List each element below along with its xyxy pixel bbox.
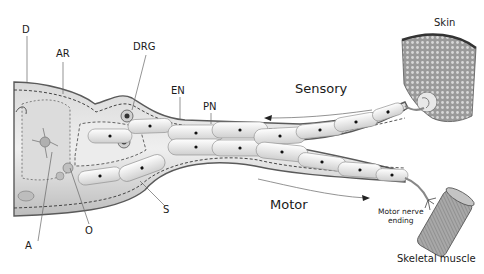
label-D: D: [22, 25, 30, 35]
motor-nerve-ending-line1: Motor nerve: [378, 207, 424, 216]
nucleus: [238, 128, 241, 131]
drg-neuron-upper: [121, 110, 133, 122]
schwann-cell: [376, 168, 408, 181]
schwann-cell: [128, 118, 172, 134]
motor-nerve-ending: [425, 198, 436, 210]
label-skin: Skin: [434, 18, 455, 28]
motor-nerve-fiber: [405, 178, 428, 200]
motor-nerve-ending-line2: ending: [388, 216, 414, 225]
nerve-diagram: [0, 0, 484, 274]
label-DRG: DRG: [133, 42, 155, 52]
nucleus: [194, 131, 197, 134]
label-motor-nerve-ending: Motor nerve ending: [378, 207, 424, 226]
label-EN: EN: [171, 86, 185, 96]
label-motor: Motor: [270, 198, 308, 211]
label-A: A: [25, 241, 32, 251]
leader-S: [140, 181, 165, 206]
label-S: S: [163, 205, 169, 215]
spinal-cell: [18, 191, 34, 201]
schwann-cell: [338, 161, 383, 178]
nucleus: [108, 134, 111, 137]
label-AR: AR: [56, 49, 70, 59]
schwann-cell: [88, 129, 132, 143]
label-sensory: Sensory: [295, 82, 347, 95]
label-PN: PN: [203, 102, 217, 112]
label-O: O: [85, 226, 93, 236]
label-skeletal-muscle: Skeletal muscle: [397, 254, 476, 264]
nucleus: [238, 146, 241, 149]
nucleus: [194, 145, 197, 148]
